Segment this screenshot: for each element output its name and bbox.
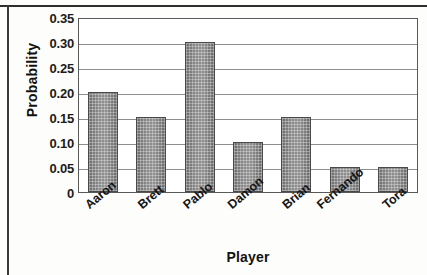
plot-area <box>78 18 418 193</box>
x-tick-slot: Tora <box>370 195 418 245</box>
y-tick-label: 0.05 <box>30 162 74 175</box>
x-tick-slot: Damon <box>224 195 272 245</box>
x-tick-slot: Brian <box>273 195 321 245</box>
y-tick-label: 0.35 <box>30 12 74 25</box>
y-tick-label: 0 <box>30 187 74 200</box>
y-tick-label: 0.20 <box>30 87 74 100</box>
bar <box>136 117 166 192</box>
x-tick-slot: Fernando <box>321 195 369 245</box>
page-frame-top-rule <box>0 5 427 7</box>
y-tick-label: 0.10 <box>30 137 74 150</box>
x-axis-title: Player <box>78 249 418 265</box>
page-frame-left-rule <box>7 5 9 275</box>
x-tick-slot: Brett <box>127 195 175 245</box>
bar-series <box>79 19 417 192</box>
x-axis-tick-labels: AaronBrettPabloDamonBrianFernandoTora <box>78 195 418 245</box>
y-axis-tick-labels: 00.050.100.150.200.250.300.35 <box>24 18 74 193</box>
y-tick-label: 0.25 <box>30 62 74 75</box>
y-tick-label: 0.15 <box>30 112 74 125</box>
bar <box>88 92 118 192</box>
y-tick-label: 0.30 <box>30 37 74 50</box>
bar <box>185 42 215 192</box>
x-tick-slot: Pablo <box>175 195 223 245</box>
bar <box>281 117 311 192</box>
x-tick-slot: Aaron <box>78 195 126 245</box>
figure: Probability 00.050.100.150.200.250.300.3… <box>0 0 427 275</box>
